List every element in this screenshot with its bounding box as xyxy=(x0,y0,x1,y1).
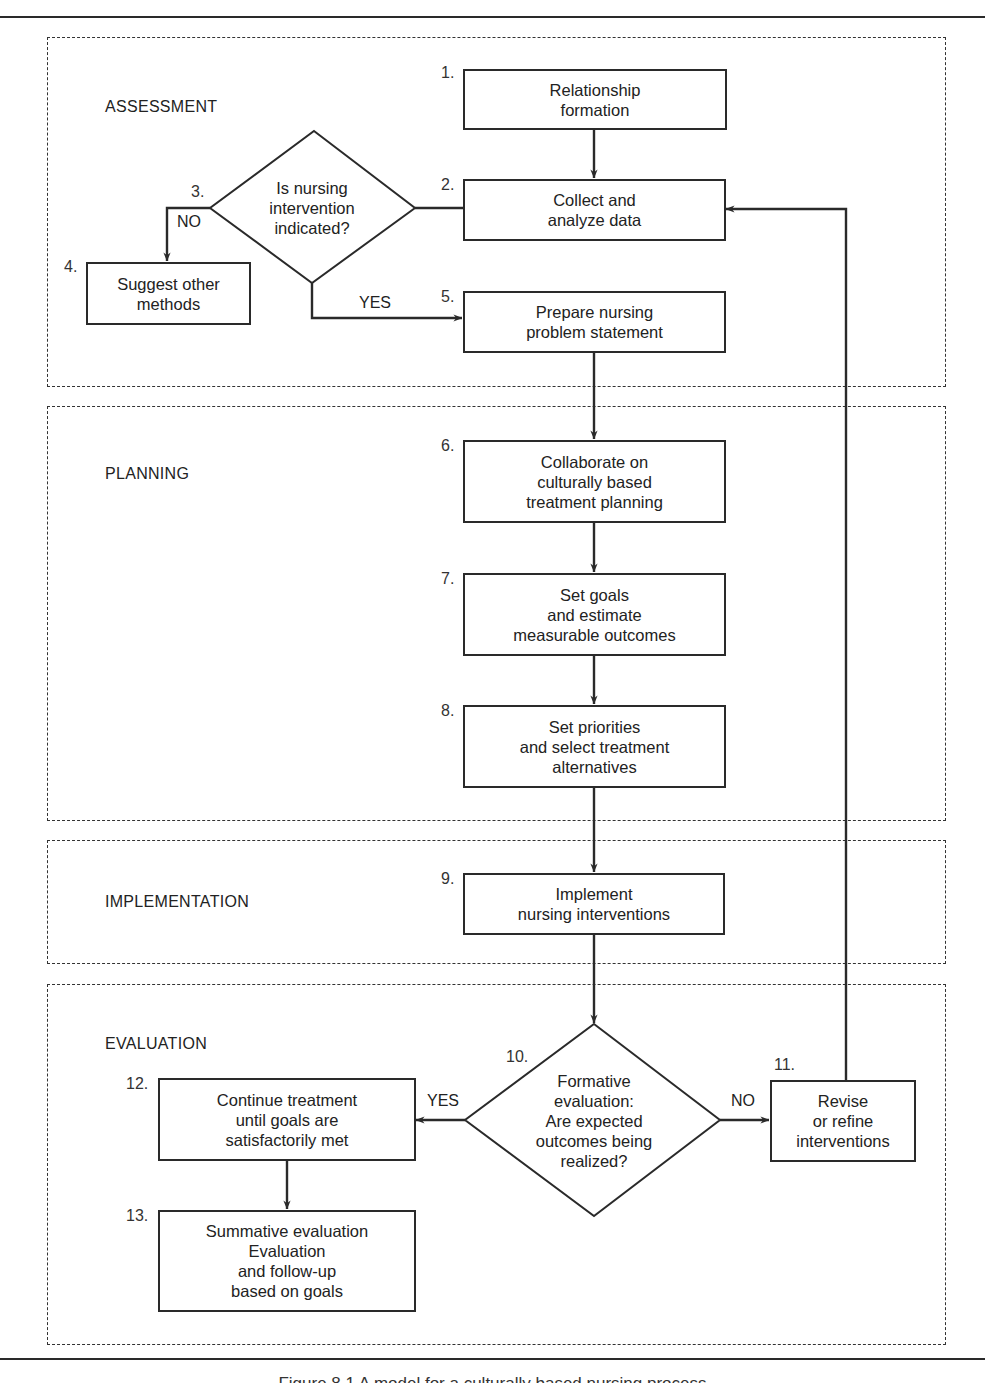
step-text-8: Set priorities and select treatment alte… xyxy=(520,717,670,777)
step-number-10: 10. xyxy=(506,1048,528,1066)
process-box-collect-analyze-data: Collect and analyze data xyxy=(463,179,726,241)
step-text-4: Suggest other methods xyxy=(117,274,220,314)
process-box-suggest-other-methods: Suggest other methods xyxy=(86,262,251,325)
branch-label-3-yes: YES xyxy=(359,294,391,312)
step-text-7: Set goals and estimate measurable outcom… xyxy=(513,585,675,645)
branch-label-3-no: NO xyxy=(177,213,201,231)
step-number-4: 4. xyxy=(64,258,77,276)
arrow-11-feedback-to-2 xyxy=(726,209,846,1080)
step-number-6: 6. xyxy=(441,437,454,455)
step-number-2: 2. xyxy=(441,176,454,194)
step-number-3: 3. xyxy=(191,183,204,201)
process-box-continue-treatment: Continue treatment until goals are satis… xyxy=(158,1078,416,1161)
step-text-11: Revise or refine interventions xyxy=(796,1091,890,1151)
process-box-revise-interventions: Revise or refine interventions xyxy=(770,1080,916,1162)
step-number-12: 12. xyxy=(126,1075,148,1093)
step-number-9: 9. xyxy=(441,870,454,888)
step-number-1: 1. xyxy=(441,64,454,82)
step-text-1: Relationship formation xyxy=(550,80,641,120)
step-text-13: Summative evaluation Evaluation and foll… xyxy=(206,1221,368,1301)
process-box-prepare-problem-statement: Prepare nursing problem statement xyxy=(463,291,726,353)
figure-caption-clip: Figure 8.1 A model for a culturally base… xyxy=(0,1372,985,1383)
step-number-8: 8. xyxy=(441,702,454,720)
figure-caption: Figure 8.1 A model for a culturally base… xyxy=(0,1374,985,1383)
process-box-summative-evaluation: Summative evaluation Evaluation and foll… xyxy=(158,1210,416,1312)
process-box-collaborate-treatment-planning: Collaborate on culturally based treatmen… xyxy=(463,440,726,523)
step-text-5: Prepare nursing problem statement xyxy=(526,302,663,342)
decision-text-3: Is nursing intervention indicated? xyxy=(232,178,392,238)
step-text-2: Collect and analyze data xyxy=(548,190,642,230)
step-text-6: Collaborate on culturally based treatmen… xyxy=(526,452,663,512)
process-box-relationship-formation: Relationship formation xyxy=(463,69,727,130)
process-box-implement-interventions: Implement nursing interventions xyxy=(463,873,725,935)
branch-label-10-yes: YES xyxy=(427,1092,459,1110)
decision-text-10: Formative evaluation: Are expected outco… xyxy=(514,1071,674,1171)
process-box-set-priorities: Set priorities and select treatment alte… xyxy=(463,705,726,788)
step-number-7: 7. xyxy=(441,570,454,588)
step-number-11: 11. xyxy=(774,1056,795,1074)
branch-label-10-no: NO xyxy=(731,1092,755,1110)
process-box-set-goals: Set goals and estimate measurable outcom… xyxy=(463,573,726,656)
step-text-9: Implement nursing interventions xyxy=(518,884,670,924)
step-text-12: Continue treatment until goals are satis… xyxy=(217,1090,357,1150)
step-number-13: 13. xyxy=(126,1207,148,1225)
step-number-5: 5. xyxy=(441,288,454,306)
